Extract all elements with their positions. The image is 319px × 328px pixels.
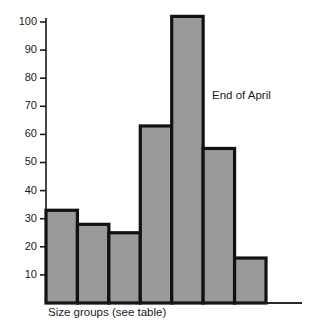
histogram-chart: 100 90 80 70 60 50 xyxy=(0,0,319,328)
y-tick-label: 100 xyxy=(19,15,37,27)
bar xyxy=(46,210,77,303)
y-tick-label: 70 xyxy=(25,99,37,111)
bar xyxy=(172,16,203,303)
series-annotation-label: End of April xyxy=(212,89,271,101)
y-tick-label: 50 xyxy=(25,155,37,167)
chart-container: 100 90 80 70 60 50 xyxy=(0,0,319,328)
bar xyxy=(77,224,108,303)
x-axis-caption: Size groups (see table) xyxy=(48,306,166,318)
bar xyxy=(140,126,171,303)
bar xyxy=(109,233,140,303)
y-tick-label: 60 xyxy=(25,127,37,139)
bar xyxy=(235,258,266,303)
y-tick-label: 80 xyxy=(25,71,37,83)
y-tick-label: 90 xyxy=(25,43,37,55)
y-tick-label: 40 xyxy=(25,184,37,196)
bar xyxy=(203,148,234,303)
y-tick-label: 20 xyxy=(25,240,37,252)
y-tick-label: 30 xyxy=(25,212,37,224)
y-tick-label: 10 xyxy=(25,268,37,280)
